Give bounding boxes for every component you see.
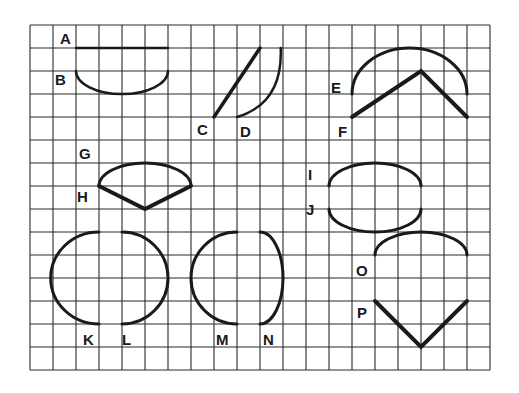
grid-lines: [30, 25, 490, 370]
label-o: O: [356, 263, 368, 278]
label-b: B: [55, 72, 66, 87]
label-p: P: [357, 305, 367, 320]
label-l: L: [122, 332, 131, 347]
label-k: K: [83, 332, 94, 347]
label-g: G: [79, 146, 91, 161]
label-e: E: [331, 80, 341, 95]
label-f: F: [338, 124, 347, 139]
label-i: I: [308, 167, 312, 182]
label-h: H: [77, 189, 88, 204]
label-n: N: [263, 332, 274, 347]
shape-layer: [51, 48, 467, 347]
label-j: J: [306, 202, 314, 217]
shape-d: [237, 48, 281, 117]
label-d: D: [240, 124, 251, 139]
label-a: A: [60, 31, 71, 46]
label-c: C: [197, 122, 208, 137]
label-m: M: [216, 332, 229, 347]
